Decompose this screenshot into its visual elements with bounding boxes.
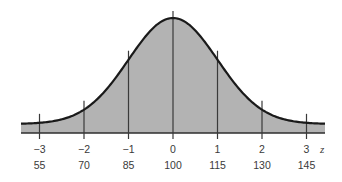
score-tick-label: 130 xyxy=(253,159,271,171)
z-tick-label: 1 xyxy=(215,143,221,155)
score-tick-label: 115 xyxy=(209,159,226,171)
z-tick-label: −3 xyxy=(34,143,46,155)
z-tick-label: 2 xyxy=(259,143,265,155)
z-tick-labels: −3−2−10123 xyxy=(34,143,310,155)
score-tick-labels: 557085100115130145 xyxy=(34,159,316,171)
score-tick-label: 145 xyxy=(298,159,316,171)
score-tick-label: 100 xyxy=(164,159,182,171)
z-tick-label: −1 xyxy=(123,143,135,155)
normal-distribution-chart: −3−2−10123 557085100115130145 z xyxy=(0,0,342,182)
z-tick-label: −2 xyxy=(78,143,90,155)
score-tick-label: 70 xyxy=(78,159,90,171)
z-axis-label: z xyxy=(319,143,325,155)
z-tick-label: 0 xyxy=(170,143,176,155)
score-tick-label: 55 xyxy=(34,159,46,171)
z-tick-label: 3 xyxy=(304,143,310,155)
score-tick-label: 85 xyxy=(123,159,135,171)
